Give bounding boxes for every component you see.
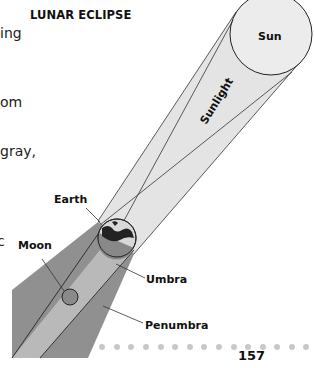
umbra-label: Umbra <box>146 273 187 286</box>
lunar-eclipse-diagram: Sun Sunlight Earth Moon Umbra Penumbra <box>0 0 314 368</box>
earth-label: Earth <box>54 193 87 206</box>
penumbra-label: Penumbra <box>145 319 208 332</box>
earth-shape <box>97 219 136 260</box>
sun-label: Sun <box>258 30 282 43</box>
dotted-divider <box>99 344 309 350</box>
moon-shape <box>62 289 78 305</box>
page-number: 157 <box>238 348 265 363</box>
moon-label: Moon <box>18 239 52 252</box>
